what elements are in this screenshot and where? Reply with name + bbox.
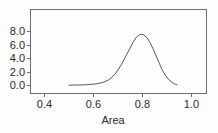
density-plot: 0.0 2.0 4.0 6.0 8.0 0.4 0.6 0.8 1.0 Area — [0, 0, 218, 133]
x-tick-label-1: 0.6 — [86, 98, 101, 110]
y-tick-label-3: 6.0 — [10, 39, 25, 51]
x-tick-label-3: 1.0 — [184, 98, 199, 110]
chart-screenshot: 0.0 2.0 4.0 6.0 8.0 0.4 0.6 0.8 1.0 Area — [0, 0, 218, 133]
y-tick-label-1: 2.0 — [10, 66, 25, 78]
y-tick-label-0: 0.0 — [10, 79, 25, 91]
x-tick-label-0: 0.4 — [37, 98, 52, 110]
y-axis-tick-labels: 0.0 2.0 4.0 6.0 8.0 — [10, 25, 25, 91]
y-tick-label-4: 8.0 — [10, 25, 25, 37]
y-tick-label-2: 4.0 — [10, 52, 25, 64]
x-tick-label-2: 0.8 — [135, 98, 150, 110]
x-axis-title: Area — [101, 114, 125, 126]
